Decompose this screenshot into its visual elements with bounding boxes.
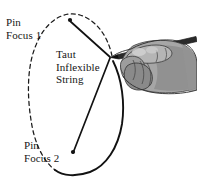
label-pin-focus-1-line2: Focus 1 <box>6 29 41 42</box>
pin-focus-1-head <box>68 18 72 22</box>
hand-holding-pencil <box>111 37 198 94</box>
pin-focus-2-head <box>71 150 75 154</box>
label-taut-inflexible-string: Taut Inflexible String <box>56 48 100 86</box>
knuckle-highlight-1 <box>132 48 146 56</box>
label-pin-focus-1: Pin Focus 1 <box>6 16 41 41</box>
label-pin-focus-2-line2: Focus 2 <box>24 152 59 165</box>
label-pin-focus-2-line1: Pin <box>24 139 59 152</box>
label-pin-focus-1-line1: Pin <box>6 16 41 29</box>
label-string-line2: Inflexible <box>56 61 100 74</box>
knuckle-highlight-2 <box>146 47 158 54</box>
ellipse-construction-figure: Pin Focus 1 Pin Focus 2 Taut Inflexible … <box>0 0 197 182</box>
label-string-line1: Taut <box>56 48 100 61</box>
label-pin-focus-2: Pin Focus 2 <box>24 139 59 164</box>
label-string-line3: String <box>56 73 100 86</box>
